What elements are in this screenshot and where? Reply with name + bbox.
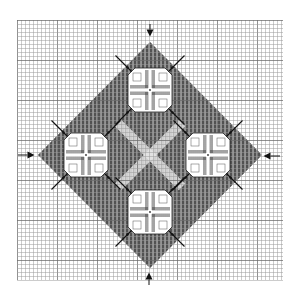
chart-canvas <box>0 0 296 295</box>
motif-center-dot <box>207 154 209 156</box>
motif-center-dot <box>85 154 87 156</box>
arrow-top-icon <box>147 24 154 37</box>
motif-center-dot <box>149 89 151 91</box>
arrow-bottom-icon <box>146 273 153 286</box>
motif-center-dot <box>149 211 151 213</box>
